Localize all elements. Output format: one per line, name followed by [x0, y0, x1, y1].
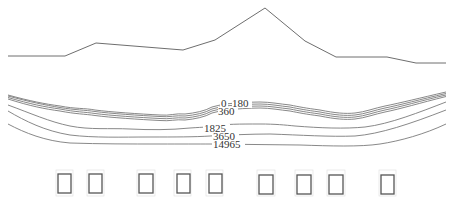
box-marker-3 — [139, 174, 153, 193]
box-marker-7 — [297, 175, 311, 194]
box-marker-2 — [89, 174, 102, 193]
contour-label-14965: 14965 — [213, 138, 241, 150]
box-marker-1 — [58, 174, 71, 193]
box-marker-8 — [329, 175, 343, 194]
box-marker-9 — [381, 175, 394, 194]
box-markers — [56, 170, 396, 196]
box-marker-4 — [177, 174, 190, 193]
cross-section-diagram: 0 180 360 1825 3650 14965 — [0, 0, 451, 210]
contour-labels: 0 180 360 1825 3650 14965 — [203, 97, 252, 150]
box-marker-6 — [259, 175, 273, 194]
contour-label-360: 360 — [218, 105, 235, 117]
surface-profile-line — [8, 8, 446, 63]
box-marker-5 — [209, 174, 222, 193]
